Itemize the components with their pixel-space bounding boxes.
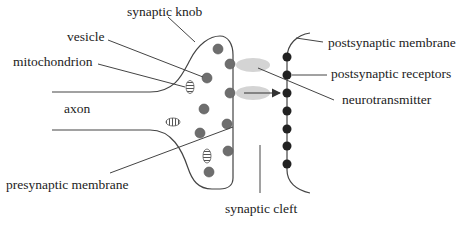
receptor: [283, 89, 292, 98]
vesicle: [204, 167, 214, 177]
vesicle: [199, 104, 209, 114]
mitochondrion: [186, 81, 194, 94]
label-vesicle: vesicle: [67, 29, 104, 44]
label-synaptic-cleft: synaptic cleft: [225, 201, 298, 216]
label-postsynaptic-membrane: postsynaptic membrane: [328, 35, 456, 50]
receptor: [283, 53, 292, 62]
vesicle: [195, 128, 205, 138]
vesicle: [213, 44, 223, 54]
label-neurotransmitter: neurotransmitter: [342, 92, 432, 107]
receptor: [283, 107, 292, 116]
synapse-diagram: synaptic knob vesicle mitochondrion axon…: [0, 0, 465, 225]
receptor: [283, 142, 292, 151]
vesicle: [225, 59, 235, 69]
label-postsynaptic-receptors: postsynaptic receptors: [331, 66, 451, 81]
label-mitochondrion: mitochondrion: [13, 54, 93, 69]
label-synaptic-knob: synaptic knob: [127, 4, 203, 19]
receptor: [283, 71, 292, 80]
mitochondrion: [166, 118, 180, 126]
neurotransmitter-cloud-upper: [236, 58, 270, 72]
receptor: [283, 125, 292, 134]
receptor: [283, 160, 292, 169]
vesicle: [202, 73, 212, 83]
vesicles: [195, 44, 235, 177]
vesicle: [225, 88, 235, 98]
label-axon: axon: [64, 101, 90, 116]
leader-lines: [98, 17, 334, 193]
label-presynaptic-membrane: presynaptic membrane: [6, 177, 129, 192]
vesicle: [223, 146, 233, 156]
mitochondrion: [203, 149, 211, 163]
